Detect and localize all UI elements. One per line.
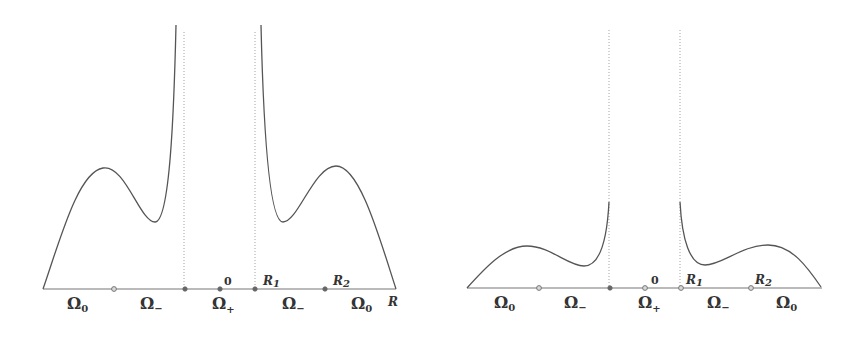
right-point-asymptote-1 xyxy=(608,286,612,290)
right-region-omegaminus-b: Ω− xyxy=(707,293,730,313)
right-label-r1: R1 xyxy=(685,273,703,288)
left-point-zero xyxy=(218,287,222,291)
left-label-r1: R1 xyxy=(262,274,280,289)
right-region-omega0-b: Ω0 xyxy=(776,293,797,313)
left-axis-label: R xyxy=(387,295,398,309)
left-curve-branch-right xyxy=(261,25,396,289)
right-region-omegaminus-a: Ω− xyxy=(564,293,587,313)
right-label-zero: 0 xyxy=(651,274,659,287)
left-region-omegaminus-b: Ω− xyxy=(282,294,305,314)
left-point-r1 xyxy=(253,287,257,291)
right-panel: 0 R1 R2 Ω0 Ω− Ω+ Ω− Ω0 xyxy=(467,30,822,314)
right-label-r2: R2 xyxy=(754,273,772,288)
figure-canvas: 0 R1 R2 Ω0 Ω− Ω+ Ω− Ω0 R 0 R1 R2 Ω0 xyxy=(0,0,864,341)
right-point-boundary-omega0 xyxy=(537,286,542,291)
right-curve-branch-right xyxy=(680,202,821,287)
right-point-r2 xyxy=(749,286,754,291)
left-point-asymptote-1 xyxy=(183,287,187,291)
right-point-r1 xyxy=(679,286,684,291)
left-curve-branch-left xyxy=(43,25,176,289)
left-label-zero: 0 xyxy=(224,275,232,288)
left-point-r2 xyxy=(323,287,327,291)
left-region-omega0-b: Ω0 xyxy=(351,294,372,314)
right-region-omegaplus: Ω+ xyxy=(638,293,661,314)
right-region-omega0-a: Ω0 xyxy=(494,293,515,313)
left-region-omega0-a: Ω0 xyxy=(67,294,88,314)
left-panel: 0 R1 R2 Ω0 Ω− Ω+ Ω− Ω0 R xyxy=(43,25,398,315)
left-region-omegaplus: Ω+ xyxy=(212,294,235,315)
left-point-boundary-omega0 xyxy=(112,287,117,292)
left-region-omegaminus-a: Ω− xyxy=(140,294,163,314)
left-label-r2: R2 xyxy=(332,274,350,289)
right-curve-branch-left xyxy=(467,202,609,288)
right-point-zero xyxy=(643,286,648,291)
